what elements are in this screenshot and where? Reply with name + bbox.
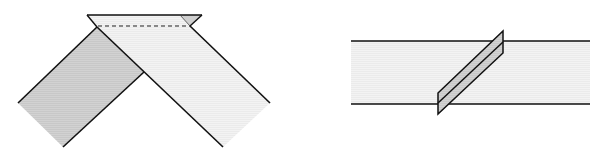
diagram-canvas xyxy=(0,0,604,162)
left-figure-folded-strip xyxy=(18,15,270,147)
right-figure-z-fold-strip xyxy=(351,31,590,114)
